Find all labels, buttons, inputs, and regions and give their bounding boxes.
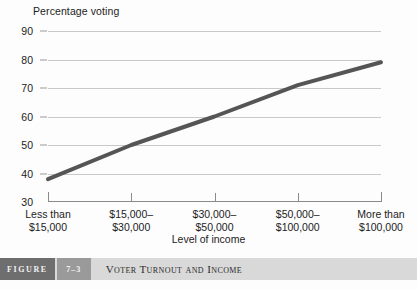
y-tick-mark (40, 145, 47, 146)
y-tick-label: 60 (0, 111, 33, 123)
x-axis-title: Level of income (0, 233, 417, 245)
x-category-label: $15,000–$30,000 (86, 208, 176, 233)
x-category-label-line: $50,000– (253, 208, 343, 221)
y-tick-label: 70 (0, 82, 33, 94)
x-category-label-line: Less than (3, 208, 93, 221)
figure-title: Voter Turnout and Income (91, 258, 242, 280)
figure-caption-bar: FIGURE 7–3 Voter Turnout and Income (0, 258, 417, 280)
figure-number: 7–3 (57, 258, 91, 280)
y-tick-label: 50 (0, 139, 33, 151)
y-tick-label: 80 (0, 54, 33, 66)
x-category-label-line: $30,000 (86, 221, 176, 234)
x-category-label: More than$100,000 (336, 208, 417, 233)
x-category-label: $50,000–$100,000 (253, 208, 343, 233)
x-category-label-line: $15,000– (86, 208, 176, 221)
y-tick-mark (40, 59, 47, 60)
y-tick-label: 40 (0, 168, 33, 180)
x-category-label-line: $100,000 (336, 221, 417, 234)
x-category-label-line: $100,000 (253, 221, 343, 234)
y-tick-label: 90 (0, 25, 33, 37)
turnout-line-series (48, 31, 381, 202)
y-tick-mark (40, 88, 47, 89)
x-axis-line (48, 201, 381, 203)
x-category-label: $30,000–$50,000 (170, 208, 260, 233)
x-category-label-line: $30,000– (170, 208, 260, 221)
x-tick-mark (381, 192, 382, 202)
y-tick-label: 30 (0, 196, 33, 208)
y-axis-title: Percentage voting (33, 5, 119, 17)
figure-container: Percentage voting 30405060708090 Less th… (0, 0, 417, 289)
x-category-label-line: $50,000 (170, 221, 260, 234)
plot-area: 30405060708090 (48, 31, 381, 202)
x-category-label-line: $15,000 (3, 221, 93, 234)
figure-label: FIGURE (0, 258, 55, 280)
y-tick-mark (40, 31, 47, 32)
x-category-label-line: More than (336, 208, 417, 221)
y-tick-mark (40, 116, 47, 117)
y-tick-mark (40, 173, 47, 174)
x-category-label: Less than$15,000 (3, 208, 93, 233)
